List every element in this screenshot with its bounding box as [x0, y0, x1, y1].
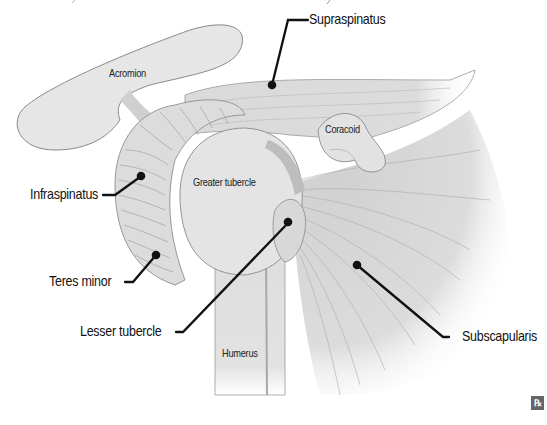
label-supraspinatus: Supraspinatus	[309, 12, 385, 27]
label-subscapularis: Subscapularis	[462, 329, 537, 344]
shoulder-anatomy-diagram: Supraspinatus Infraspinatus Teres minor …	[0, 0, 547, 425]
label-coracoid: Coracoid	[325, 124, 360, 135]
label-lesser-tubercle: Lesser tubercle	[80, 324, 161, 339]
label-greater-tubercle: Greater tubercle	[193, 177, 256, 188]
label-humerus: Humerus	[222, 348, 258, 359]
subscapularis-muscle	[290, 110, 508, 395]
label-teres-minor: Teres minor	[49, 274, 111, 289]
rx-icon: ℞	[531, 396, 544, 410]
label-acromion: Acromion	[109, 68, 146, 79]
label-infraspinatus: Infraspinatus	[30, 187, 98, 202]
anatomy-illustration	[0, 0, 547, 425]
